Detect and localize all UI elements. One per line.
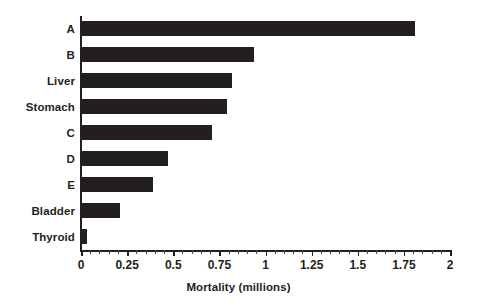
x-axis-minor-tick: [413, 250, 414, 254]
x-axis-major-tick: [266, 250, 268, 256]
bar-chart: ABLiverStomachCDEBladderThyroid Mortalit…: [0, 0, 477, 307]
y-axis-tick-labels: ABLiverStomachCDEBladderThyroid: [0, 16, 75, 250]
x-axis-minor-tick: [330, 250, 331, 254]
x-axis-major-tick: [127, 250, 129, 256]
bar: [81, 203, 120, 218]
x-axis-title: Mortality (millions): [0, 281, 477, 293]
x-axis-minor-tick: [321, 250, 322, 254]
y-axis-tick-label: E: [67, 172, 75, 198]
x-axis-minor-tick: [385, 250, 386, 254]
y-axis-tick-label: C: [67, 120, 75, 146]
x-axis-minor-tick: [164, 250, 165, 254]
x-axis-minor-tick: [90, 250, 91, 254]
x-axis-minor-tick: [349, 250, 350, 254]
x-axis-tick-label: 1: [262, 258, 269, 272]
x-axis-minor-tick: [302, 250, 303, 254]
y-axis-tick-label: Bladder: [31, 198, 75, 224]
y-axis-tick-label: A: [67, 16, 75, 42]
x-axis-tick-label: 0.75: [208, 258, 231, 272]
x-axis-tick-label: 0.25: [115, 258, 138, 272]
bar-row: [81, 146, 450, 172]
x-axis-minor-tick: [441, 250, 442, 254]
x-axis-minor-tick: [118, 250, 119, 254]
x-axis-minor-tick: [229, 250, 230, 254]
x-axis-major-tick: [312, 250, 314, 256]
x-axis-major-tick: [173, 250, 175, 256]
plot-area: [81, 16, 450, 250]
bar: [81, 21, 415, 36]
x-axis-minor-tick: [210, 250, 211, 254]
x-axis-minor-tick: [99, 250, 100, 254]
x-axis-minor-tick: [182, 250, 183, 254]
y-axis-tick-label: D: [67, 146, 75, 172]
x-axis-minor-tick: [367, 250, 368, 254]
bar: [81, 73, 232, 88]
y-axis-tick-label: Stomach: [26, 94, 75, 120]
bar-row: [81, 120, 450, 146]
x-axis-minor-tick: [238, 250, 239, 254]
x-axis-minor-tick: [109, 250, 110, 254]
bar-row: [81, 94, 450, 120]
x-axis-tick-label: 1.5: [349, 258, 366, 272]
x-axis-tick-label: 1.25: [300, 258, 323, 272]
x-axis-minor-tick: [201, 250, 202, 254]
x-axis-minor-tick: [422, 250, 423, 254]
x-axis-minor-tick: [155, 250, 156, 254]
x-axis-minor-tick: [192, 250, 193, 254]
bar-row: [81, 224, 450, 250]
x-axis-minor-tick: [284, 250, 285, 254]
bar-row: [81, 68, 450, 94]
x-axis-major-tick: [219, 250, 221, 256]
bar: [81, 99, 227, 114]
x-axis-tick-label: 2: [447, 258, 454, 272]
x-axis-major-tick: [81, 250, 83, 256]
bar-row: [81, 172, 450, 198]
x-axis-minor-tick: [256, 250, 257, 254]
x-axis-minor-tick: [432, 250, 433, 254]
x-axis-minor-tick: [136, 250, 137, 254]
x-axis-minor-tick: [247, 250, 248, 254]
bar: [81, 229, 87, 244]
bar-row: [81, 198, 450, 224]
x-axis-minor-tick: [376, 250, 377, 254]
bar-row: [81, 42, 450, 68]
bar: [81, 47, 254, 62]
y-axis-tick-label: Thyroid: [32, 224, 75, 250]
bar: [81, 125, 212, 140]
x-axis-major-tick: [450, 250, 452, 256]
x-axis-major-tick: [358, 250, 360, 256]
x-axis-minor-tick: [339, 250, 340, 254]
bar: [81, 177, 153, 192]
y-axis-tick-label: B: [67, 42, 75, 68]
x-axis-minor-tick: [146, 250, 147, 254]
x-axis-minor-tick: [293, 250, 294, 254]
y-axis-tick-label: Liver: [47, 68, 75, 94]
x-axis-minor-tick: [395, 250, 396, 254]
x-axis-tick-label: 1.75: [392, 258, 415, 272]
x-axis-minor-tick: [275, 250, 276, 254]
x-axis-tick-label: 0: [78, 258, 85, 272]
x-axis-major-tick: [404, 250, 406, 256]
bar-row: [81, 16, 450, 42]
bar: [81, 151, 168, 166]
x-axis-tick-label: 0.5: [165, 258, 182, 272]
